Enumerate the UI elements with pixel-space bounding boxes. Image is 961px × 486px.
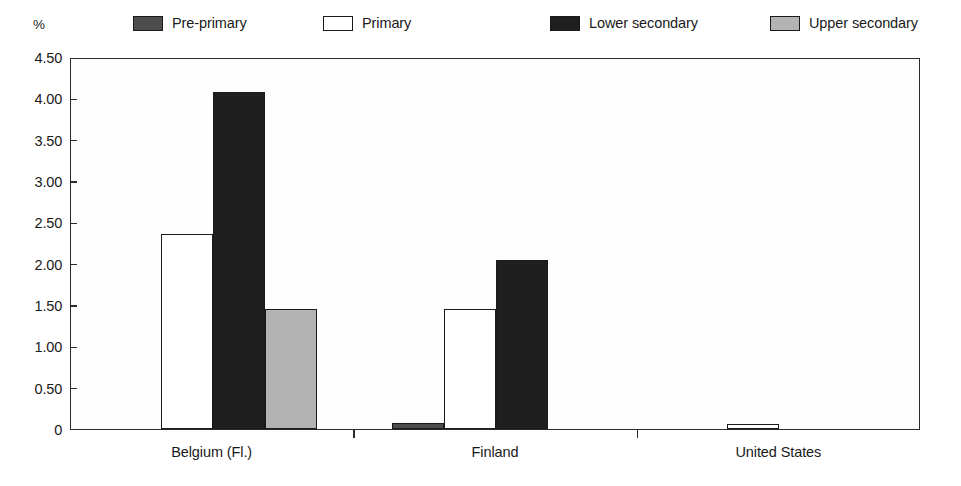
y-axis-unit-label: %	[33, 17, 45, 32]
legend-swatch-icon	[770, 16, 800, 31]
y-axis-tick-label: 4.50	[4, 50, 62, 66]
y-axis-tick-mark	[70, 99, 77, 100]
legend-item-label: Pre-primary	[172, 15, 247, 31]
y-axis-tick-label: 3.00	[4, 174, 62, 190]
y-axis-tick-marks	[70, 58, 82, 430]
legend-item-lower-secondary[interactable]: Lower secondary	[550, 15, 698, 31]
legend-item-upper-secondary[interactable]: Upper secondary	[770, 15, 918, 31]
y-axis-tick-label: 0.50	[4, 381, 62, 397]
bar	[161, 234, 213, 429]
chart-legend: Pre-primaryPrimaryLower secondaryUpper s…	[70, 8, 950, 38]
legend-item-label: Upper secondary	[809, 15, 918, 31]
y-axis-tick-label: 3.50	[4, 133, 62, 149]
legend-item-primary[interactable]: Primary	[323, 15, 411, 31]
y-axis-tick-mark	[70, 305, 77, 306]
legend-swatch-icon	[133, 16, 163, 31]
bar	[213, 92, 265, 429]
bar-chart-figure: Pre-primaryPrimaryLower secondaryUpper s…	[0, 0, 961, 486]
y-axis-tick-mark	[70, 388, 77, 389]
x-axis-tick-mark	[353, 430, 354, 438]
y-axis-tick-label: 1.50	[4, 298, 62, 314]
y-axis-tick-mark	[70, 264, 77, 265]
legend-swatch-icon	[323, 16, 353, 31]
x-axis-tick-mark	[637, 430, 638, 438]
x-axis-category-label: Belgium (Fl.)	[171, 444, 252, 460]
legend-item-label: Lower secondary	[589, 15, 698, 31]
y-axis-tick-mark	[70, 347, 77, 348]
legend-item-label: Primary	[362, 15, 411, 31]
y-axis-tick-label: 2.00	[4, 257, 62, 273]
bar	[265, 309, 317, 429]
y-axis-tick-label: 4.00	[4, 91, 62, 107]
bars-container	[71, 59, 919, 429]
x-axis-category-label: Finland	[472, 444, 519, 460]
y-axis-tick-label: 0	[4, 422, 62, 438]
bar	[496, 260, 548, 429]
legend-item-pre-primary[interactable]: Pre-primary	[133, 15, 247, 31]
x-axis-tick-labels: Belgium (Fl.)FinlandUnited States	[70, 444, 920, 470]
y-axis-tick-mark	[70, 181, 77, 182]
legend-swatch-icon	[550, 16, 580, 31]
x-axis-category-label: United States	[735, 444, 821, 460]
bar	[727, 424, 779, 429]
x-axis-tick-marks	[70, 430, 920, 440]
y-axis-tick-label: 1.00	[4, 339, 62, 355]
y-axis-tick-labels: 00.501.001.502.002.503.003.504.004.50	[0, 58, 62, 430]
plot-area	[70, 58, 920, 430]
y-axis-tick-label: 2.50	[4, 215, 62, 231]
y-axis-tick-mark	[70, 140, 77, 141]
bar	[444, 309, 496, 429]
bar	[392, 423, 444, 429]
y-axis-tick-mark	[70, 223, 77, 224]
